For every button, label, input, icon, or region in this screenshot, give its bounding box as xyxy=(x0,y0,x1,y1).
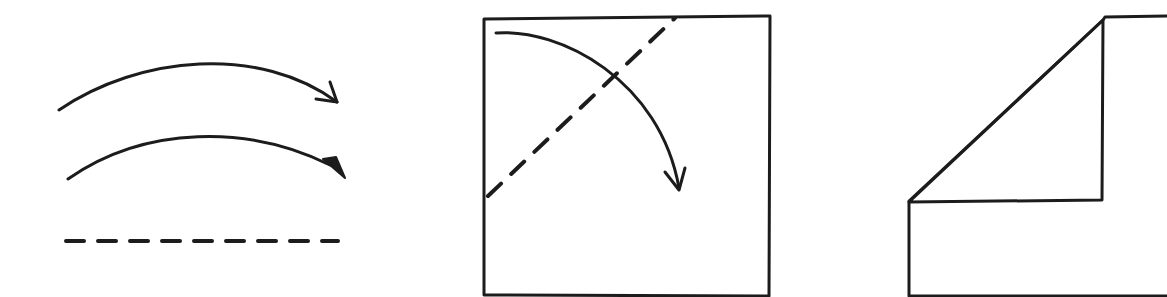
triangular-flap xyxy=(909,20,1103,202)
step-square-with-diagonal-fold xyxy=(484,16,770,296)
diagonal-fold-line xyxy=(488,18,675,196)
curved-fold-arrow-icon xyxy=(496,33,685,190)
legend xyxy=(59,64,345,241)
valley-fold-arrow-icon xyxy=(59,64,337,110)
mountain-fold-arrow-icon xyxy=(68,137,345,179)
origami-diagram xyxy=(0,0,1167,297)
folded-shape-outline xyxy=(909,16,1167,296)
step-folded-result xyxy=(909,16,1167,296)
square-outline xyxy=(484,16,770,296)
